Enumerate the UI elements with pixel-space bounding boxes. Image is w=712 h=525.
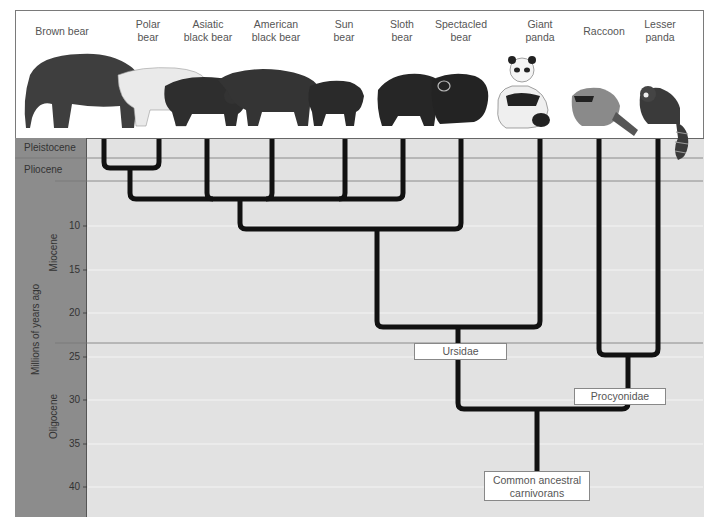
tick-25: 25	[56, 351, 80, 362]
label-procyonidae: Procyonidae	[574, 388, 666, 405]
epoch-pleistocene: Pleistocene	[24, 142, 76, 153]
tick-15: 15	[56, 264, 80, 275]
tick-35: 35	[56, 438, 80, 449]
label-common-ancestral-carnivorans: Common ancestralcarnivorans	[484, 471, 590, 501]
tick-20: 20	[56, 307, 80, 318]
tick-10: 10	[56, 220, 80, 231]
epoch-pliocene: Pliocene	[24, 164, 62, 175]
lesser-panda-tail-icon	[0, 0, 712, 525]
y-axis-title: Millions of years ago	[30, 275, 41, 385]
label-ursidae: Ursidae	[414, 343, 507, 360]
tick-40: 40	[56, 481, 80, 492]
tick-30: 30	[56, 394, 80, 405]
